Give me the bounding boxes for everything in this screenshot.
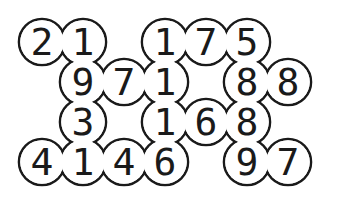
cell-digit: 7 [195,20,218,64]
cell-digit: 6 [195,100,218,144]
cell-digit: 7 [277,140,300,184]
cell-digit: 9 [72,60,95,104]
cell-digit: 8 [236,100,259,144]
cell-digit: 1 [72,140,95,184]
cell-digit: 6 [154,140,177,184]
cell-digit: 1 [154,100,177,144]
cell-digit: 1 [72,20,95,64]
cell-digit: 8 [236,60,259,104]
cell-digit: 3 [72,100,95,144]
cell-digit: 1 [154,60,177,104]
number-bubble-puzzle-board: 21175971883168414697 [0,0,339,205]
cell-digit: 1 [154,20,177,64]
cell-digit: 9 [236,140,259,184]
cell-digit: 5 [236,20,259,64]
cell-digit: 8 [277,60,300,104]
cell-digit: 4 [31,140,54,184]
cell-digit: 7 [113,60,136,104]
cell-digit: 2 [31,20,54,64]
cell-digit: 4 [113,140,136,184]
